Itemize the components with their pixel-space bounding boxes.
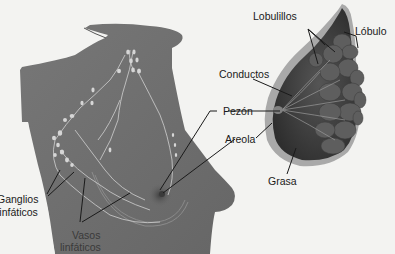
label-lobulo: Lóbulo bbox=[355, 25, 387, 37]
breast-cross-section bbox=[265, 4, 366, 166]
label-conductos: Conductos bbox=[219, 68, 269, 80]
label-areola: Areola bbox=[225, 133, 255, 145]
label-ganglios-line2: linfáticos bbox=[0, 206, 38, 218]
diagram-illustration bbox=[0, 0, 395, 254]
label-vasos-line2: linfáticos bbox=[60, 241, 101, 253]
torso-silhouette bbox=[0, 24, 235, 254]
label-pezon: Pezón bbox=[223, 105, 253, 117]
side-nipple bbox=[273, 106, 283, 114]
label-grasa: Grasa bbox=[268, 175, 297, 187]
label-lobulillos: Lobulillos bbox=[253, 10, 297, 22]
label-vasos-line1: Vasos bbox=[72, 229, 100, 241]
breast-anatomy-diagram: Lobulillos Lóbulo Conductos Pezón Areola… bbox=[0, 0, 395, 254]
label-ganglios-line1: Ganglios bbox=[0, 193, 38, 205]
